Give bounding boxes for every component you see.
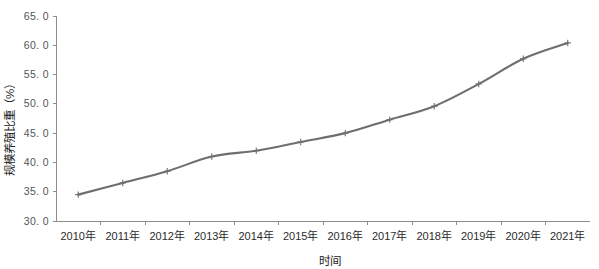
x-tick-label: 2013年: [194, 229, 229, 242]
x-tick-label: 2018年: [417, 229, 452, 242]
x-tick-label: 2012年: [150, 229, 185, 242]
x-tick-label: 2020年: [506, 229, 541, 242]
y-tick-label: 60. 0: [24, 39, 49, 51]
x-tick-label: 2010年: [61, 229, 96, 242]
line-chart: 30. 035. 040. 045. 050. 055. 060. 065. 0…: [0, 0, 599, 269]
y-tick-label: 50. 0: [24, 97, 49, 109]
x-tick-label: 2014年: [239, 229, 274, 242]
chart-canvas: 30. 035. 040. 045. 050. 055. 060. 065. 0…: [0, 0, 599, 269]
y-tick-label: 30. 0: [24, 215, 49, 227]
y-tick-label: 40. 0: [24, 156, 49, 168]
x-tick-label: 2019年: [461, 229, 496, 242]
y-tick-label: 55. 0: [24, 68, 49, 80]
x-tick-label: 2016年: [328, 229, 363, 242]
plot-background: [0, 0, 599, 269]
y-tick-label: 35. 0: [24, 185, 49, 197]
y-axis-title: 规模养殖比重（%）: [3, 78, 16, 176]
x-tick-label: 2011年: [105, 229, 140, 242]
y-tick-label: 45. 0: [24, 127, 49, 139]
x-tick-label: 2015年: [283, 229, 318, 242]
y-tick-label: 65. 0: [24, 10, 49, 22]
x-tick-label: 2021年: [550, 229, 585, 242]
x-tick-label: 2017年: [372, 229, 407, 242]
x-axis-title: 时间: [319, 255, 341, 267]
